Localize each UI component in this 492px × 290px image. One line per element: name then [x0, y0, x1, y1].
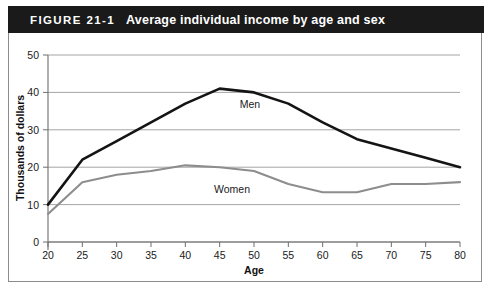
figure-container: FIGURE 21-1 Average individual income by… — [0, 0, 492, 290]
figure-number-label: FIGURE 21-1 — [30, 14, 115, 26]
figure-title-text: Average individual income by age and sex — [126, 13, 385, 27]
figure-outer-frame — [8, 6, 482, 282]
figure-title-bar: FIGURE 21-1 Average individual income by… — [8, 6, 484, 33]
